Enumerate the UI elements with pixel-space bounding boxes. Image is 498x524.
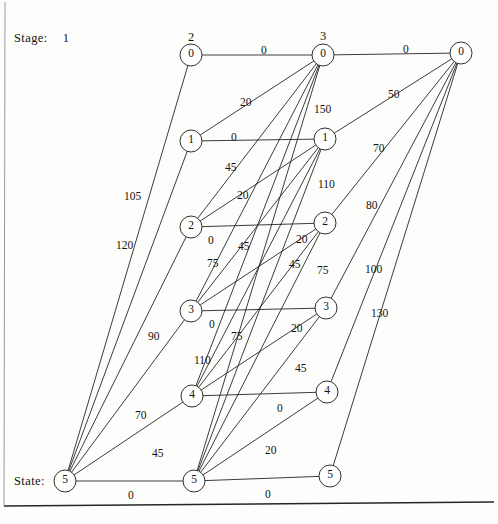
edge-weight-label: 70 [373,142,385,154]
edge-weight-label: 20 [296,233,308,245]
edge-weight-label: 110 [194,354,211,366]
edge-c1r5-c2r3 [72,320,185,472]
node-label-c3r3: 3 [314,300,338,312]
node-label-c3r1: 1 [313,131,337,143]
edge-weight-label: 45 [289,258,301,270]
edge-c2r5-c3r1 [198,149,321,470]
node-label-c3r5: 5 [318,468,342,480]
node-label-c2r4: 4 [180,388,204,400]
edge-c3r0-c4r0 [334,53,450,55]
node-label-c3r4: 4 [315,384,339,396]
node-label-c3r2: 2 [313,215,337,227]
edge-weight-label: 0 [209,318,215,330]
node-label-c2r5: 5 [182,473,206,485]
edge-weight-label: 130 [371,307,388,319]
edge-c3r5-c4r0 [333,64,457,466]
node-label-c2r2: 2 [179,219,203,231]
node-label-c3r0: 0 [311,47,335,59]
edge-c1r5-c2r0 [68,66,188,471]
edge-weight-label: 50 [388,88,400,100]
edge-weight-label: 45 [238,240,250,252]
edge-weight-label: 0 [261,44,267,56]
edge-weight-label: 0 [403,43,409,55]
edge-c3r2-c4r0 [332,62,454,215]
edge-weight-label: 20 [265,444,277,456]
edge-c1r5-c2r2 [70,237,186,471]
edge-c2r3-c3r1 [198,148,318,303]
edge-weight-label: 75 [231,330,243,342]
edge-weight-label: 105 [124,190,141,202]
stage-label-text: Stage: [14,31,48,45]
edge-c2r5-c3r4 [203,398,318,475]
node-layer [54,42,472,492]
diagram-page: Stage: 1 State: 23 002015050045110701052… [0,0,498,524]
node-label-c1r5: 5 [53,473,77,485]
edge-weight-label: 0 [231,131,237,143]
node-label-c2r0: 0 [179,47,203,59]
stage-label: Stage: 1 [14,31,69,46]
edge-weight-label: 45 [295,362,307,374]
state-label: State: [14,474,45,489]
edge-weight-label: 0 [128,489,134,501]
edge-weight-label: 20 [291,322,303,334]
column-header-2: 2 [179,30,203,45]
edge-weight-label: 0 [265,488,271,500]
node-label-c2r3: 3 [179,303,203,315]
edge-c2r5-c3r3 [201,317,320,473]
edge-weight-label: 20 [240,96,252,108]
node-label-c2r1: 1 [179,133,203,145]
edge-c2r2-c3r1 [200,145,316,221]
edge-weight-label: 100 [365,263,382,275]
left-rule [4,2,5,506]
edge-c3r4-c4r0 [331,63,457,382]
edge-c2r5-c3r5 [205,476,319,480]
edge-weight-label: 150 [314,103,331,115]
edge-weight-label: 75 [207,257,219,269]
edge-weight-label: 80 [366,199,378,211]
edge-weight-label: 0 [208,234,214,246]
node-label-c4r0: 0 [449,45,473,57]
frame-layer [4,2,494,506]
edge-weight-label: 45 [225,161,237,173]
edge-weight-label: 120 [116,239,133,251]
edge-layer [68,53,458,481]
edge-weight-label: 20 [237,189,249,201]
stage-first-value: 1 [63,31,70,45]
bottom-rule [4,502,494,506]
edge-weight-label: 45 [152,447,164,459]
network-graph [0,0,498,524]
column-header-3: 3 [311,29,335,44]
edge-weight-label: 110 [318,178,335,190]
edge-weight-label: 90 [148,330,160,342]
edge-weight-label: 70 [135,409,147,421]
edge-weight-label: 75 [317,264,329,276]
edge-weight-label: 0 [277,402,283,414]
